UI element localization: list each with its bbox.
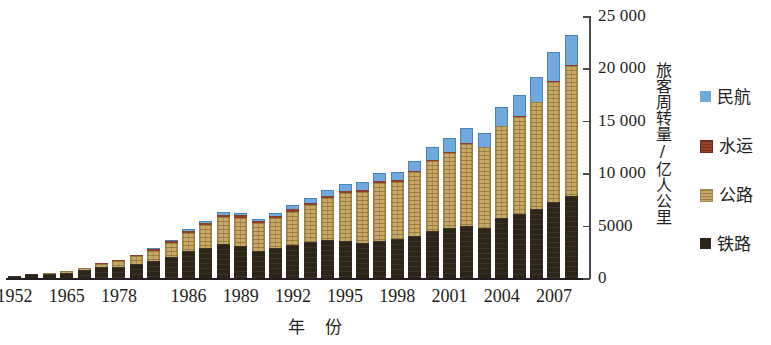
bar-segment-民航 (460, 128, 473, 143)
bar-2008 (565, 35, 578, 278)
x-tick-label-2004: 2004 (472, 286, 532, 306)
y-tick-10000 (583, 173, 591, 175)
legend-label-水运: 水运 (719, 137, 753, 155)
bar-1997 (373, 173, 386, 278)
bar-segment-铁路 (147, 261, 160, 278)
bar-segment-公路 (304, 205, 317, 242)
bar-segment-民航 (565, 35, 578, 65)
y-tick-20000 (583, 68, 591, 70)
legend-item-铁路[interactable]: 铁路 (700, 235, 770, 284)
bar-segment-公路 (199, 225, 212, 248)
bar-segment-铁路 (373, 241, 386, 278)
legend-item-公路[interactable]: 公路 (700, 186, 770, 235)
bar-segment-公路 (252, 223, 265, 250)
bar-1990 (252, 219, 265, 278)
x-axis-title: 年 份 (255, 313, 375, 338)
bar-segment-公路 (478, 147, 491, 228)
legend-swatch-rail-icon (700, 238, 711, 249)
bar-1993 (304, 198, 317, 278)
bar-segment-民航 (530, 77, 543, 102)
bar-segment-铁路 (426, 231, 439, 279)
bar-segment-铁路 (495, 218, 508, 278)
x-tick-label-1978: 1978 (89, 286, 149, 306)
bar-segment-铁路 (530, 209, 543, 278)
bar-1970 (78, 268, 91, 278)
bar-segment-铁路 (443, 228, 456, 278)
bar-segment-公路 (530, 102, 543, 208)
bar-segment-铁路 (182, 251, 195, 278)
bar-segment-铁路 (460, 226, 473, 278)
y-tick-label-25000: 25 000 (598, 7, 646, 24)
bar-1994 (321, 190, 334, 278)
bar-2004 (495, 107, 508, 278)
legend-item-民航[interactable]: 民航 (700, 88, 770, 137)
legend-label-公路: 公路 (719, 186, 753, 204)
bar-1987 (199, 221, 212, 278)
x-tick-label-1965: 1965 (37, 286, 97, 306)
bar-segment-公路 (443, 153, 456, 229)
bar-segment-公路 (513, 117, 526, 214)
bar-segment-铁路 (112, 267, 125, 278)
bar-segment-公路 (286, 212, 299, 245)
y-tick-label-10000: 10 000 (598, 164, 646, 181)
bar-segment-铁路 (304, 242, 317, 279)
bar-segment-公路 (373, 183, 386, 241)
bar-1978 (112, 260, 125, 278)
bar-1999 (408, 161, 421, 278)
bar-2007 (547, 52, 560, 278)
bar-segment-民航 (356, 182, 369, 190)
bar-1965 (60, 271, 73, 278)
bar-segment-民航 (547, 52, 560, 81)
bar-segment-民航 (391, 172, 404, 181)
bar-segment-公路 (391, 182, 404, 240)
x-tick-label-1992: 1992 (263, 286, 323, 306)
bar-segment-铁路 (130, 264, 143, 278)
bar-segment-公路 (495, 126, 508, 218)
bar-segment-公路 (565, 66, 578, 197)
y-axis-line (589, 16, 591, 279)
bar-segment-铁路 (478, 228, 491, 278)
bar-segment-铁路 (217, 244, 230, 278)
y-tick-15000 (583, 121, 591, 123)
legend-label-民航: 民航 (717, 88, 751, 106)
bar-segment-铁路 (356, 243, 369, 278)
bar-series-container (6, 16, 586, 278)
bar-segment-民航 (339, 184, 352, 191)
bar-segment-民航 (478, 133, 491, 146)
bar-segment-铁路 (269, 248, 282, 278)
bar-segment-铁路 (286, 245, 299, 278)
bar-segment-民航 (373, 173, 386, 181)
x-tick-label-1998: 1998 (367, 286, 427, 306)
bar-2002 (460, 128, 473, 278)
bar-segment-民航 (426, 147, 439, 160)
x-tick-label-2001: 2001 (420, 286, 480, 306)
bar-segment-民航 (495, 107, 508, 126)
x-tick-label-1995: 1995 (315, 286, 375, 306)
passenger-turnover-bar-chart: 0500010 00015 00020 00025 000 1952196519… (0, 0, 771, 345)
legend-item-水运[interactable]: 水运 (700, 137, 770, 186)
bar-segment-公路 (547, 82, 560, 203)
bar-segment-公路 (269, 218, 282, 248)
bar-segment-民航 (443, 138, 456, 151)
y-axis-title: 旅客周转量/亿人公里 (649, 62, 671, 225)
legend-swatch-road-icon (700, 189, 713, 202)
y-tick-5000 (583, 226, 591, 228)
bar-segment-公路 (339, 193, 352, 241)
bar-segment-公路 (408, 172, 421, 236)
bar-1982 (147, 248, 160, 278)
bar-1992 (286, 205, 299, 278)
bar-segment-公路 (356, 192, 369, 243)
y-tick-25000 (583, 16, 590, 18)
bar-segment-公路 (426, 161, 439, 231)
bar-segment-铁路 (234, 246, 247, 278)
legend-label-铁路: 铁路 (717, 235, 751, 253)
bar-segment-民航 (408, 161, 421, 171)
legend-swatch-air-icon (700, 91, 711, 102)
x-tick-label-1989: 1989 (211, 286, 271, 306)
bar-segment-公路 (460, 144, 473, 226)
bar-segment-铁路 (408, 236, 421, 278)
bar-segment-公路 (217, 217, 230, 243)
bar-segment-铁路 (339, 241, 352, 278)
bar-segment-铁路 (565, 196, 578, 278)
bar-segment-公路 (165, 243, 178, 257)
